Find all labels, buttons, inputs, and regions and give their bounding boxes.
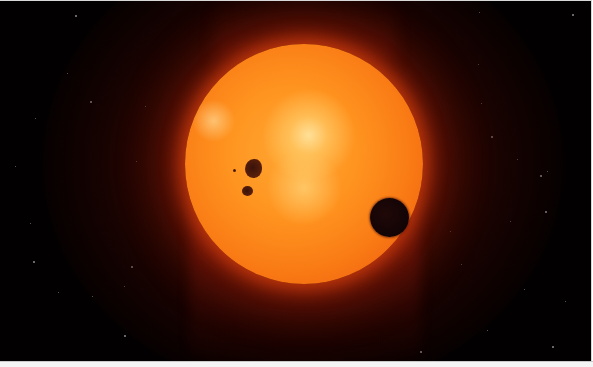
background-star — [33, 261, 35, 263]
star — [185, 44, 423, 284]
background-star — [124, 335, 126, 337]
background-star — [30, 223, 31, 224]
background-star — [572, 14, 574, 16]
background-star — [565, 301, 566, 302]
space-image — [0, 0, 592, 361]
background-star — [524, 289, 525, 290]
background-star — [487, 330, 488, 331]
background-star — [35, 118, 36, 119]
transiting-planet — [370, 198, 409, 237]
background-star — [591, 241, 592, 242]
background-star — [58, 292, 59, 293]
background-star — [75, 15, 77, 17]
sunspot-tiny — [233, 169, 236, 172]
sunspot-large — [245, 159, 262, 178]
background-star — [552, 346, 554, 348]
sunspot-small — [242, 186, 253, 196]
background-star — [15, 166, 16, 167]
image-bottom-border — [0, 361, 593, 367]
